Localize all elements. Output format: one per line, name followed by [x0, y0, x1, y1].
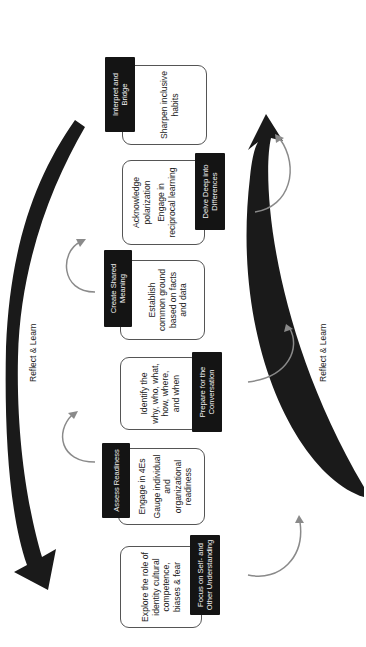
step-3-card: Identify the why, who, what, how, where,… — [120, 357, 200, 430]
reflect-learn-label-top: Reflect & Learn — [318, 323, 328, 382]
step-4-header: Create Shared Meaning — [104, 250, 132, 327]
connector-arrow-2-3 — [63, 415, 95, 462]
big-cycle-arrow-bottom — [6, 120, 85, 590]
process-cycle-diagram: Reflect & Learn Reflect & Learn Explore … — [0, 0, 366, 647]
step-5-card: Acknowledge polarization Engage in recip… — [122, 160, 205, 245]
step-6-body: Sharpen inclusive habits — [159, 71, 180, 139]
step-5-header: Delve Deep into Differences — [195, 153, 225, 230]
step-2-card: Engage in 4Es Gauge individual and organ… — [118, 448, 205, 525]
step-4-card: Establish common ground based on facts a… — [120, 260, 205, 340]
step-1-header: Focus on Self- and Other Understanding — [190, 535, 220, 615]
step-1-body: Explore the role of identity cultural co… — [140, 552, 182, 622]
step-3-header: Prepare for the Conversation — [192, 352, 222, 432]
reflect-learn-label-bottom: Reflect & Learn — [28, 323, 38, 382]
step-4-body: Establish common ground based on facts a… — [147, 266, 189, 334]
step-2-header: Assess Readiness — [102, 443, 130, 518]
step-3-body: Identify the why, who, what, how, where,… — [139, 363, 181, 424]
step-6-header: Interpret and Bridge — [105, 57, 135, 132]
step-2-body-1: Engage in 4Es — [137, 459, 148, 515]
big-cycle-arrow-top — [247, 114, 364, 497]
step-5-body-1: Acknowledge polarization — [131, 166, 152, 239]
connector-arrow-4-5 — [66, 242, 95, 292]
step-2-body-2: Gauge individual and organizational read… — [152, 454, 194, 519]
connector-arrow-1-2 — [248, 522, 301, 576]
step-5-body-2: Engage in reciprocal learning — [156, 166, 177, 239]
connector-arrowhead-1-2 — [295, 515, 304, 523]
